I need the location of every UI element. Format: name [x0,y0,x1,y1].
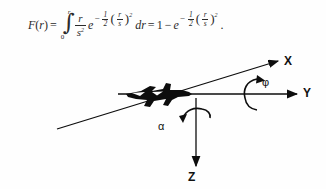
integral-group: r ∫ 0 [61,12,72,38]
formula-equals-2: = [148,18,155,33]
differential-dr: dr [135,18,146,33]
formula-equals-1: = [50,18,57,33]
exponent-inner-num-1: r [117,11,122,19]
integrand-fraction: r s2 [75,13,86,38]
exponent-coefficient-2: 1 2 [188,11,194,27]
y-axis-label: Y [303,86,311,100]
z-axis-label: Z [188,170,195,184]
formula-trailing-punctuation: . [221,18,224,33]
exponent-sign-2: − [180,13,185,23]
exponent-outer-power-1: 2 [129,12,132,18]
x-axis-label: X [284,54,292,68]
formula-rhs-minus: − [165,18,172,33]
exponent-coefficient-den-2: 2 [188,20,194,28]
formula-function-name: F [28,18,35,33]
exponent-coefficient-1: 1 2 [102,11,108,27]
exponent-coefficient-den-1: 2 [103,20,109,28]
formula-rhs-one: 1 [157,18,163,33]
aircraft-silhouette [126,83,192,107]
exponent-inner-fraction-1: r s [117,11,123,27]
integrand-denominator: s2 [75,26,86,38]
exponent-inner-fraction-group-2: ( r s ) 2 [196,11,218,27]
exponent-group-2: − 1 2 ( r s ) 2 [180,11,218,27]
figure-page: F(r) = r ∫ 0 r s2 e − 1 2 ( r [0,0,326,189]
integrand-numerator: r [76,13,84,25]
exponent-outer-power-2: 2 [215,12,218,18]
integral-sign: ∫ [63,14,75,31]
exponent-inner-num-2: r [203,11,208,19]
phi-rotation-label: φ [262,76,269,88]
exponent-inner-den-1: s [117,20,122,28]
exponential-base-2: e [173,18,178,33]
exponent-coefficient-num-1: 1 [103,11,109,19]
exponent-inner-den-2: s [203,20,208,28]
exponent-inner-fraction-group-1: ( r s ) 2 [110,11,132,27]
integrand-denominator-power: 2 [81,27,84,33]
rayleigh-cdf-formula: F(r) = r ∫ 0 r s2 e − 1 2 ( r [28,12,224,38]
alpha-rotation-label: α [158,120,164,132]
exponent-paren-open-1: ( [110,15,114,23]
diagram-canvas [0,48,326,189]
alpha-rotation-arc [179,108,210,123]
formula-paren-close-1: ) [44,18,48,33]
exponent-inner-fraction-2: r s [202,11,208,27]
exponent-coefficient-num-2: 1 [188,11,194,19]
exponent-paren-open-2: ( [196,15,200,23]
integral-lower-limit: 0 [61,33,65,41]
exponential-base-1: e [88,18,93,33]
exponent-group-1: − 1 2 ( r s ) 2 [94,11,132,27]
exponent-sign-1: − [94,13,99,23]
aircraft-axes-diagram: X Y Z φ α [0,48,326,189]
